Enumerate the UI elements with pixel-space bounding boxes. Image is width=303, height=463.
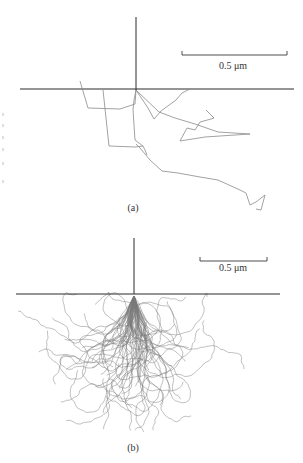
electron-trajectory bbox=[136, 144, 265, 210]
trajectory-paths bbox=[80, 81, 265, 210]
scale-bar: 0.5 μm bbox=[200, 257, 267, 273]
panel-label: (b) bbox=[127, 442, 139, 454]
electron-trajectory bbox=[136, 90, 250, 141]
electron-trajectory bbox=[103, 90, 143, 147]
scale-bar-label: 0.5 μm bbox=[219, 262, 247, 273]
trajectory-paths bbox=[18, 292, 244, 432]
electron-trajectory-figure: 0.5 μm (a) 0.5 μm (b) bbox=[0, 0, 303, 463]
scale-bar-label: 0.5 μm bbox=[219, 60, 247, 71]
scale-bar-line bbox=[200, 257, 267, 261]
scale-bar: 0.5 μm bbox=[182, 51, 287, 71]
panel-b-interaction-volume: 0.5 μm (b) bbox=[16, 238, 280, 454]
scale-bar-line bbox=[182, 51, 287, 55]
electron-trajectory bbox=[136, 89, 190, 119]
panel-label: (a) bbox=[127, 202, 138, 214]
panel-a-single-trajectory: 0.5 μm (a) bbox=[20, 17, 294, 214]
electron-trajectory bbox=[80, 81, 136, 109]
